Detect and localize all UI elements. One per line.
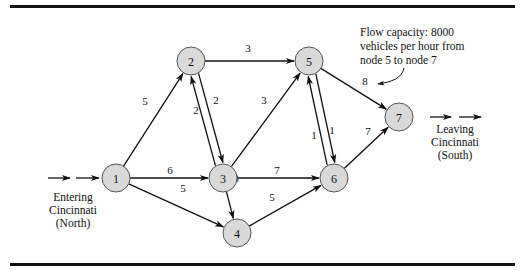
edge-1-to-4 [129,184,224,227]
edge-3-to-4 [226,192,233,219]
leaving-line-3: (South) [438,149,473,162]
node-label: 1 [113,172,119,186]
node-label: 5 [306,55,312,69]
edge-capacity-6-5: 1 [329,124,335,136]
node-4: 4 [223,219,251,247]
node-7: 7 [385,103,413,131]
edges-layer: 56522337351187 [124,42,389,227]
node-1: 1 [102,164,130,192]
node-2: 2 [177,47,205,75]
edge-capacity-6-7: 7 [365,125,371,137]
entering-line-1: Entering [53,191,93,204]
annotation-line-1: Flow capacity: 8000 [360,26,454,39]
entering-label: Entering Cincinnati (North) [49,191,97,230]
edge-capacity-5-7: 8 [362,75,368,87]
node-3: 3 [209,164,237,192]
annotation-line-3: node 5 to node 7 [360,54,437,66]
edge-5-to-7 [321,68,386,109]
node-label: 6 [331,172,337,186]
node-label: 3 [220,172,226,186]
edge-capacity-3-5: 3 [261,94,267,106]
network-diagram: 56522337351187 1234567 Entering Cincinna… [0,0,529,271]
leaving-line-2: Cincinnati [431,136,479,148]
edge-6-to-5 [308,77,327,166]
edge-capacity-1-2: 5 [142,95,148,107]
capacity-annotation: Flow capacity: 8000 vehicles per hour fr… [360,26,464,84]
edge-capacity-5-6: 1 [311,129,317,141]
edge-capacity-3-2: 2 [213,94,219,106]
edge-capacity-3-6: 7 [274,164,280,176]
edge-4-to-6 [249,185,321,226]
node-label: 2 [188,55,194,69]
entering-line-2: Cincinnati [49,204,97,216]
annotation-pointer-arrow [378,68,404,84]
edge-capacity-1-3: 6 [167,164,173,176]
leaving-line-1: Leaving [436,123,474,136]
edge-5-to-6 [316,74,335,163]
node-5: 5 [295,47,323,75]
annotation-line-2: vehicles per hour from [360,40,464,53]
edge-capacity-2-5: 3 [245,42,251,54]
edge-capacity-2-3: 2 [193,104,199,116]
edge-1-to-2 [124,74,183,167]
edge-capacity-4-6: 5 [269,191,275,203]
entering-line-3: (North) [56,217,91,230]
leaving-label: Leaving Cincinnati (South) [431,123,479,162]
node-label: 4 [234,227,240,241]
edge-capacity-1-4: 5 [180,182,186,194]
edge-3-to-5 [231,73,300,167]
node-6: 6 [320,164,348,192]
node-label: 7 [396,111,402,125]
